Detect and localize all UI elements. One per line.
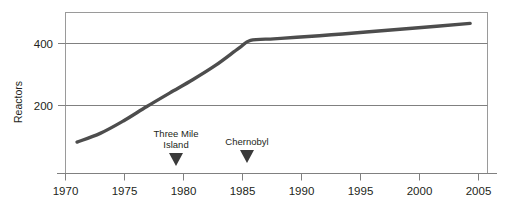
x-tick-label-1995: 1995 [348, 185, 374, 197]
x-tick-label-1990: 1990 [289, 185, 315, 197]
plot-area-border [66, 13, 488, 174]
x-tick-label-1985: 1985 [230, 185, 256, 197]
chart-canvas: 400 200 Reactors 1970 1975 1980 1985 199… [0, 0, 505, 209]
x-tick-label-1980: 1980 [171, 185, 197, 197]
annotation-label-line2: Island [163, 139, 188, 150]
y-axis-title: Reactors [12, 81, 24, 123]
y-tick-label-400: 400 [34, 38, 53, 50]
x-axis-ticks [66, 174, 479, 181]
x-tick-label-2005: 2005 [466, 185, 492, 197]
reactors-line-chart: 400 200 Reactors 1970 1975 1980 1985 199… [0, 0, 505, 209]
x-tick-label-2000: 2000 [407, 185, 433, 197]
x-tick-label-1970: 1970 [53, 185, 79, 197]
y-axis-ticks [58, 44, 66, 106]
x-tick-label-1975: 1975 [112, 185, 138, 197]
annotation-label-line1: Chernobyl [225, 136, 268, 147]
annotation-label-line1: Three Mile [154, 128, 199, 139]
y-tick-label-200: 200 [34, 100, 53, 112]
